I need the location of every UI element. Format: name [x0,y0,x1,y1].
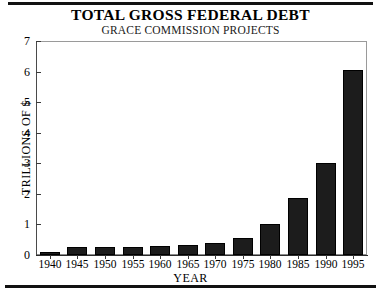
x-axis-tick-label: 1995 [333,258,373,271]
y-axis-title: TRILLIONS OF $ [19,73,34,223]
y-axis-tick-mark [36,41,41,42]
y-axis-tick-label: 0 [4,249,30,261]
bar [205,243,225,255]
bar [150,246,170,255]
y-axis-tick-mark [36,102,41,103]
y-axis-tick-mark [36,224,41,225]
bar [288,198,308,255]
chart-page: TOTAL GROSS FEDERAL DEBT GRACE COMMISSIO… [0,0,381,295]
bottom-divider-rule [5,285,376,288]
bar [178,245,198,255]
top-divider-rule [8,2,373,5]
y-axis-tick-mark [36,194,41,195]
y-axis-tick-mark [36,133,41,134]
bar [123,247,143,255]
bar [316,163,336,255]
y-axis-tick-mark [36,163,41,164]
bar [95,247,115,255]
bar [343,70,363,255]
x-axis-line [36,255,368,256]
y-axis-tick-mark [36,72,41,73]
y-axis-tick-label: 7 [4,35,30,47]
bar [260,224,280,255]
bar [67,247,87,255]
x-axis-title: YEAR [0,271,381,286]
chart-subtitle: GRACE COMMISSION PROJECTS [0,24,381,36]
bar [233,238,253,255]
chart-title: TOTAL GROSS FEDERAL DEBT [0,6,381,24]
